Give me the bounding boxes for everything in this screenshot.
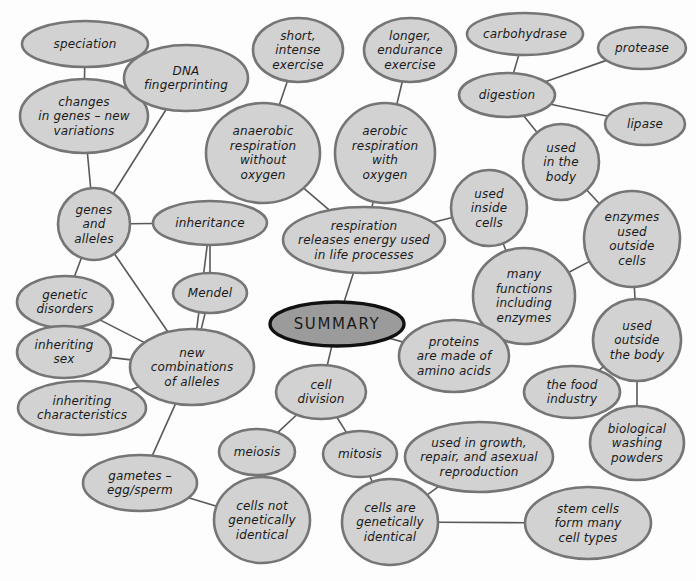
node-label-inheritance: inheritance: [175, 216, 245, 230]
node-longer_exercise[interactable]: longer,enduranceexercise: [364, 18, 456, 82]
node-respiration[interactable]: respirationreleases energy usedin life p…: [283, 207, 445, 273]
node-label-speciation: speciation: [53, 37, 116, 51]
node-mitosis[interactable]: mitosis: [323, 431, 397, 477]
node-anaerobic[interactable]: anaerobicrespirationwithoutoxygen: [206, 103, 320, 203]
node-label-washing_powders: biologicalwashingpowders: [608, 421, 667, 464]
node-meiosis[interactable]: meiosis: [219, 429, 295, 475]
node-stem_cells[interactable]: stem cellsform manycell types: [525, 487, 651, 559]
node-washing_powders[interactable]: biologicalwashingpowders: [590, 406, 684, 480]
node-label-lipase: lipase: [627, 117, 663, 131]
node-protease[interactable]: protease: [598, 27, 686, 69]
node-used_outside_body[interactable]: usedoutsidethe body: [593, 299, 681, 381]
node-carbohydrase[interactable]: carbohydrase: [467, 13, 583, 55]
node-genes_alleles[interactable]: genesandalleles: [58, 188, 130, 260]
node-label-used_in_body: usedin thebody: [543, 140, 578, 183]
node-label-cells_identical: cells aregeneticallyidentical: [356, 500, 424, 543]
connector-many_functions-to-enzymes_outside: [568, 261, 589, 272]
node-cells_identical[interactable]: cells aregeneticallyidentical: [342, 479, 438, 565]
node-genetic_disorders[interactable]: geneticdisorders: [17, 276, 113, 328]
mind-map-canvas: SUMMARYspeciationchangesin genes – newva…: [0, 0, 696, 581]
node-growth_repair[interactable]: used in growth,repair, and asexualreprod…: [405, 422, 553, 492]
node-label-carbohydrase: carbohydrase: [483, 27, 567, 41]
node-label-cells_not_identical: cells notgeneticallyidentical: [228, 498, 296, 541]
node-label-protease: protease: [614, 41, 669, 55]
node-layer: SUMMARYspeciationchangesin genes – newva…: [17, 13, 686, 565]
node-dna_fingerprinting[interactable]: DNAfingerprinting: [124, 45, 248, 111]
node-aerobic[interactable]: aerobicrespirationwithoxygen: [335, 103, 435, 203]
connector-enzymes_outside-to-used_outside_body: [634, 287, 635, 299]
node-inheriting_chars[interactable]: inheritingcharacteristics: [18, 381, 146, 435]
node-label-meiosis: meiosis: [234, 445, 281, 459]
node-gametes[interactable]: gametes –egg/sperm: [83, 455, 197, 511]
connector-short_exercise-to-anaerobic: [279, 81, 287, 105]
connector-carbohydrase-to-digestion: [513, 55, 518, 73]
connector-digestion-to-lipase: [551, 104, 608, 116]
connector-digestion-to-protease: [545, 60, 606, 81]
node-new_combinations[interactable]: newcombinationsof alleles: [130, 329, 254, 405]
connector-longer_exercise-to-aerobic: [397, 82, 403, 105]
node-label-summary: SUMMARY: [294, 315, 380, 333]
node-label-mitosis: mitosis: [338, 447, 382, 461]
node-mendel[interactable]: Mendel: [173, 273, 247, 313]
connector-respiration-to-summary: [344, 273, 353, 302]
node-lipase[interactable]: lipase: [605, 103, 685, 145]
connector-used_in_body-to-enzymes_outside: [587, 190, 600, 204]
node-summary[interactable]: SUMMARY: [270, 302, 404, 346]
node-cells_not_identical[interactable]: cells notgeneticallyidentical: [214, 477, 310, 563]
node-speciation[interactable]: speciation: [22, 21, 148, 67]
node-short_exercise[interactable]: short,intenseexercise: [253, 18, 343, 82]
node-used_in_body[interactable]: usedin thebody: [523, 124, 599, 200]
node-food_industry[interactable]: the foodindustry: [524, 366, 620, 418]
node-used_inside_cells[interactable]: usedinsidecells: [451, 170, 527, 246]
connector-anaerobic-to-respiration: [304, 188, 330, 210]
connector-summary-to-cell_division: [327, 346, 332, 365]
connector-changes_genes-to-genes_alleles: [87, 153, 90, 188]
connector-respiration-to-used_inside_cells: [433, 217, 453, 222]
node-proteins[interactable]: proteinsare made ofamino acids: [399, 320, 509, 392]
connector-cell_division-to-meiosis: [278, 415, 297, 433]
connector-gametes-to-cells_not_identical: [189, 498, 217, 507]
node-digestion[interactable]: digestion: [459, 73, 555, 117]
node-enzymes_outside[interactable]: enzymesusedoutsidecells: [584, 191, 680, 287]
node-label-stem_cells: stem cellsform manycell types: [554, 501, 622, 544]
node-label-food_industry: the foodindustry: [546, 377, 598, 406]
connector-inheriting_sex-to-new_combinations: [110, 357, 131, 359]
connector-new_combinations-to-gametes: [152, 404, 175, 456]
connector-cell_division-to-mitosis: [337, 417, 347, 432]
node-label-gametes: gametes –egg/sperm: [107, 468, 173, 497]
node-label-used_inside_cells: usedinsidecells: [471, 186, 507, 229]
mind-map-svg: SUMMARYspeciationchangesin genes – newva…: [0, 0, 696, 581]
node-cell_division[interactable]: celldivision: [276, 365, 366, 419]
connector-genes_alleles-to-genetic_disorders: [74, 258, 81, 277]
node-label-mendel: Mendel: [188, 286, 233, 300]
connector-mendel-to-new_combinations: [201, 313, 205, 330]
node-label-digestion: digestion: [479, 88, 536, 102]
connector-genes_alleles-to-new_combinations: [114, 254, 168, 332]
node-inheritance[interactable]: inheritance: [153, 201, 267, 245]
node-inheriting_sex[interactable]: inheritingsex: [17, 326, 111, 378]
node-label-genetic_disorders: geneticdisorders: [36, 287, 93, 316]
connector-cells_identical-to-growth_repair: [427, 486, 439, 494]
connector-digestion-to-used_in_body: [524, 116, 538, 133]
